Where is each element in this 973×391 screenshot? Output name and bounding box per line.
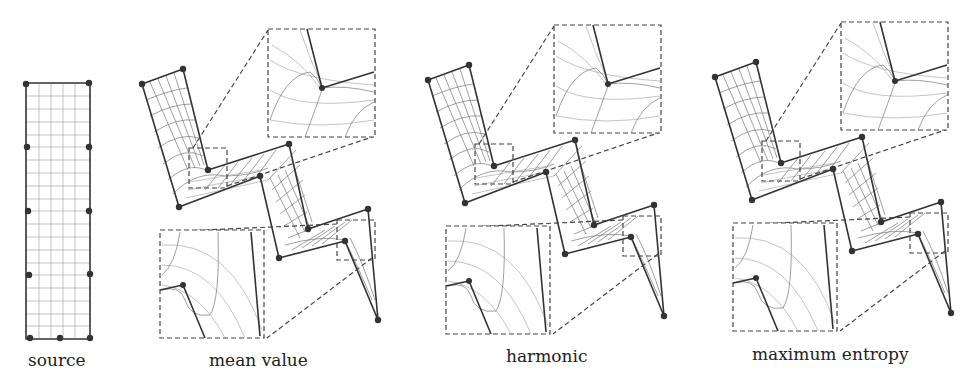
caption-mean-value: mean value: [209, 350, 308, 370]
panel-mean-value: [139, 29, 381, 338]
caption-maximum-entropy: maximum entropy: [752, 344, 909, 364]
panel-source: [23, 80, 93, 341]
figure-canvas: [0, 0, 973, 391]
caption-source: source: [28, 350, 86, 370]
caption-harmonic: harmonic: [506, 346, 587, 366]
panel-maximum-entropy: [712, 22, 954, 331]
panel-harmonic: [425, 25, 667, 334]
